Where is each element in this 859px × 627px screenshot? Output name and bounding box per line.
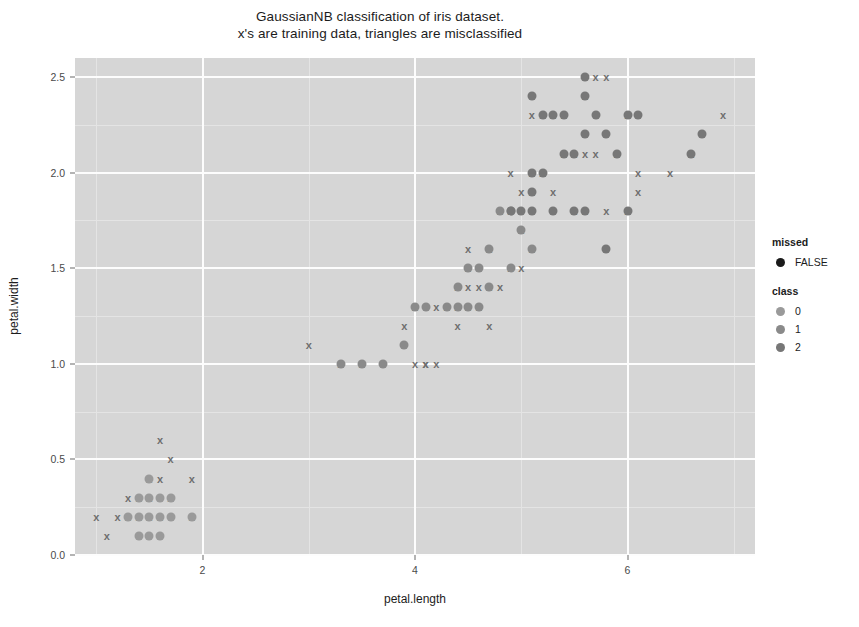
data-point-circle	[145, 493, 154, 502]
x-tick-label: 6	[625, 564, 631, 576]
legend-item-label: 1	[795, 323, 801, 335]
gridline-minor-vertical	[734, 58, 735, 555]
legend-item-label: 2	[795, 341, 801, 353]
chart-root: GaussianNB classification of iris datase…	[0, 0, 859, 627]
data-point-circle	[166, 493, 175, 502]
legend-item-class-1[interactable]: 1	[772, 320, 856, 338]
data-point-circle	[496, 206, 505, 215]
x-tick-mark	[202, 555, 203, 560]
data-point-circle	[453, 302, 462, 311]
data-point-circle	[442, 302, 451, 311]
legend-item-missed-false[interactable]: FALSE	[772, 253, 856, 271]
data-point-circle	[166, 512, 175, 521]
y-axis-label: petal.width	[7, 277, 21, 334]
data-point-circle	[538, 168, 547, 177]
gridline-minor-vertical	[309, 58, 310, 555]
x-axis-label: petal.length	[75, 592, 755, 606]
legend-item-class-0[interactable]: 0	[772, 302, 856, 320]
data-point-x: x	[529, 110, 535, 121]
legend-title-class: class	[772, 285, 856, 297]
data-point-x: x	[423, 358, 429, 369]
y-tick-mark	[70, 555, 75, 556]
legend-item-class-2[interactable]: 2	[772, 338, 856, 356]
data-point-circle	[474, 264, 483, 273]
y-tick-label: 2.5	[50, 71, 65, 83]
data-point-x: x	[433, 301, 439, 312]
legend-group-missed: missed FALSE	[772, 236, 856, 271]
data-point-x: x	[189, 473, 195, 484]
y-tick-label: 0.5	[50, 453, 65, 465]
x-tick-label: 2	[200, 564, 206, 576]
data-point-circle	[634, 111, 643, 120]
data-point-circle	[538, 111, 547, 120]
y-tick-label: 1.0	[50, 358, 65, 370]
data-point-circle	[156, 531, 165, 540]
data-point-circle	[602, 130, 611, 139]
data-point-circle	[591, 111, 600, 120]
data-point-circle	[581, 130, 590, 139]
plot-panel: xxxxxxxxxxxxxxxxxxxxxxxxxxxxxxxxxxxxxxxx…	[75, 58, 755, 555]
data-point-circle	[527, 206, 536, 215]
data-point-x: x	[401, 320, 407, 331]
data-point-x: x	[593, 72, 599, 83]
data-point-x: x	[582, 148, 588, 159]
data-point-circle	[527, 92, 536, 101]
data-point-x: x	[157, 435, 163, 446]
data-point-circle	[156, 493, 165, 502]
data-point-x: x	[667, 167, 673, 178]
gridline-minor-vertical	[521, 58, 522, 555]
data-point-x: x	[720, 110, 726, 121]
legend-item-label: FALSE	[795, 256, 828, 268]
data-point-circle	[134, 493, 143, 502]
data-point-circle	[400, 340, 409, 349]
data-point-circle	[549, 206, 558, 215]
legend-swatch-icon	[772, 303, 789, 320]
data-point-x: x	[635, 167, 641, 178]
data-point-x: x	[104, 530, 110, 541]
y-tick-mark	[70, 77, 75, 78]
data-point-circle	[156, 512, 165, 521]
data-point-circle	[581, 92, 590, 101]
x-tick-label: 4	[412, 564, 418, 576]
data-point-circle	[697, 130, 706, 139]
data-point-x: x	[465, 244, 471, 255]
legend-swatch-icon	[772, 254, 789, 271]
y-tick-mark	[70, 363, 75, 364]
data-point-x: x	[486, 320, 492, 331]
data-point-circle	[527, 187, 536, 196]
y-tick-label: 2.0	[50, 167, 65, 179]
y-tick-mark	[70, 268, 75, 269]
data-point-x: x	[125, 492, 131, 503]
data-point-circle	[559, 149, 568, 158]
data-point-x: x	[593, 148, 599, 159]
data-point-circle	[411, 302, 420, 311]
gridline-major-vertical	[627, 58, 629, 555]
data-point-x: x	[508, 167, 514, 178]
data-point-circle	[570, 206, 579, 215]
data-point-circle	[379, 359, 388, 368]
data-point-circle	[527, 245, 536, 254]
legend: missed FALSE class 012	[772, 236, 856, 370]
gridline-major-horizontal	[75, 172, 755, 174]
gridline-major-vertical	[202, 58, 204, 555]
data-point-circle	[453, 283, 462, 292]
data-point-x: x	[157, 473, 163, 484]
data-point-circle	[570, 149, 579, 158]
legend-swatch-icon	[772, 321, 789, 338]
data-point-circle	[145, 474, 154, 483]
gridline-major-horizontal	[75, 267, 755, 269]
data-point-circle	[485, 245, 494, 254]
data-point-circle	[336, 359, 345, 368]
gridline-major-horizontal	[75, 458, 755, 460]
chart-title: GaussianNB classification of iris datase…	[0, 8, 760, 42]
data-point-circle	[506, 264, 515, 273]
data-point-circle	[421, 302, 430, 311]
legend-title-missed: missed	[772, 236, 856, 248]
data-point-x: x	[114, 511, 120, 522]
data-point-circle	[134, 531, 143, 540]
legend-swatch-icon	[772, 339, 789, 356]
y-tick-label: 1.5	[50, 262, 65, 274]
y-tick-mark	[70, 459, 75, 460]
legend-group-class: class 012	[772, 285, 856, 356]
data-point-circle	[612, 149, 621, 158]
